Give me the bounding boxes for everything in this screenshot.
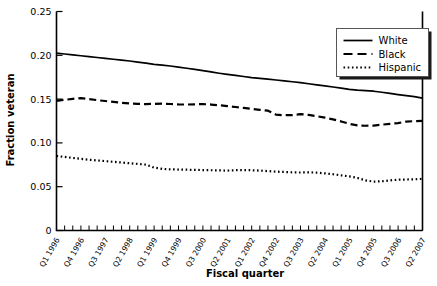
x-axis-tick-label: Q4 1996: [62, 236, 86, 269]
x-axis-tick-label: Q3 2006: [379, 236, 403, 269]
x-axis-title: Fiscal quarter: [206, 268, 284, 279]
y-axis-tick-label: 0.10: [30, 137, 51, 148]
x-axis-tick-label: Q3 2000: [184, 236, 208, 269]
legend-label-white: White: [379, 35, 408, 46]
x-axis-tick-label: Q3 2003: [282, 236, 306, 269]
x-axis-tick-label: Q4 1999: [160, 236, 184, 269]
x-axis-tick-label: Q1 2005: [330, 236, 354, 269]
veteran-fraction-line-chart: 00.050.100.150.200.25 Q1 1996Q4 1996Q3 1…: [0, 0, 437, 286]
x-axis-tick-label: Q2 1998: [111, 236, 135, 269]
x-axis-tick-label: Q2 2004: [306, 236, 330, 269]
y-axis-tick-labels: 00.050.100.150.200.25: [30, 6, 51, 236]
x-axis-tick-label: Q1 1999: [135, 236, 159, 269]
x-axis-tick-labels: Q1 1996Q4 1996Q3 1997Q2 1998Q1 1999Q4 19…: [38, 236, 428, 269]
legend-label-black: Black: [379, 49, 406, 60]
y-axis-tick-label: 0.15: [30, 94, 51, 105]
x-axis-tick-label: Q2 2007: [404, 236, 428, 269]
x-axis-tick-label: Q4 2002: [257, 236, 281, 269]
y-axis-ticks: [57, 12, 63, 231]
chart-container: 00.050.100.150.200.25 Q1 1996Q4 1996Q3 1…: [0, 0, 437, 286]
x-axis-tick-label: Q3 1997: [86, 236, 110, 269]
chart-legend: WhiteBlackHispanic: [337, 29, 432, 80]
x-axis-tick-label: Q1 2002: [233, 236, 257, 269]
legend-label-hispanic: Hispanic: [379, 62, 422, 73]
series-line-hispanic: [57, 156, 423, 182]
y-axis-title: Fraction veteran: [5, 73, 16, 166]
y-axis-tick-label: 0.20: [30, 50, 51, 61]
x-axis-tick-label: Q1 1996: [38, 236, 62, 269]
series-line-black: [57, 98, 423, 126]
y-axis-tick-label: 0.25: [30, 6, 51, 17]
x-axis-tick-label: Q2 2001: [208, 236, 232, 269]
x-axis-tick-label: Q4 2005: [355, 236, 379, 269]
y-axis-tick-label: 0: [45, 225, 51, 236]
y-axis-tick-label: 0.05: [30, 181, 51, 192]
